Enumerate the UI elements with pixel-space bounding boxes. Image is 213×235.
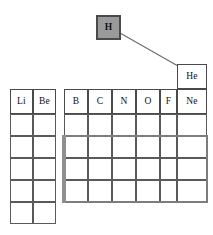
grid-cell[interactable]: [33, 158, 56, 180]
grid-cell[interactable]: [177, 114, 207, 136]
element-cell-oxygen[interactable]: O: [136, 89, 160, 114]
grid-cell[interactable]: [10, 180, 33, 202]
element-cell-lithium[interactable]: Li: [10, 89, 33, 114]
grid-cell[interactable]: [33, 136, 56, 158]
element-symbol-carbon: C: [97, 97, 104, 107]
grid-cell[interactable]: [64, 136, 88, 158]
grid-cell[interactable]: [33, 202, 56, 224]
grid-cell[interactable]: [136, 180, 160, 202]
grid-cell[interactable]: [112, 180, 136, 202]
element-cell-hydrogen[interactable]: H: [96, 15, 121, 40]
periodic-table-diagram: H He Li Be B C N O F Ne: [0, 0, 213, 235]
grid-cell[interactable]: [33, 114, 56, 136]
grid-cell[interactable]: [177, 136, 207, 158]
element-symbol-lithium: Li: [17, 97, 26, 107]
element-cell-boron[interactable]: B: [64, 89, 88, 114]
block-divider-bar: [62, 135, 66, 203]
grid-cell[interactable]: [160, 158, 177, 180]
element-cell-beryllium[interactable]: Be: [33, 89, 56, 114]
element-symbol-boron: B: [73, 97, 80, 107]
grid-cell[interactable]: [136, 114, 160, 136]
grid-cell[interactable]: [136, 158, 160, 180]
grid-cell[interactable]: [10, 114, 33, 136]
grid-cell[interactable]: [88, 114, 112, 136]
grid-cell[interactable]: [64, 180, 88, 202]
grid-cell[interactable]: [33, 180, 56, 202]
element-symbol-oxygen: O: [144, 97, 151, 107]
grid-cell[interactable]: [160, 136, 177, 158]
element-symbol-hydrogen: H: [105, 23, 113, 33]
grid-cell[interactable]: [88, 180, 112, 202]
grid-cell[interactable]: [64, 158, 88, 180]
grid-cell[interactable]: [10, 158, 33, 180]
grid-cell[interactable]: [136, 136, 160, 158]
grid-cell[interactable]: [112, 136, 136, 158]
grid-cell[interactable]: [177, 180, 207, 202]
grid-cell[interactable]: [10, 202, 33, 224]
element-cell-neon[interactable]: Ne: [177, 89, 207, 114]
element-cell-carbon[interactable]: C: [88, 89, 112, 114]
grid-cell[interactable]: [160, 114, 177, 136]
element-symbol-nitrogen: N: [120, 97, 127, 107]
grid-cell[interactable]: [112, 158, 136, 180]
grid-cell[interactable]: [112, 114, 136, 136]
grid-cell[interactable]: [10, 136, 33, 158]
element-symbol-fluorine: F: [166, 97, 171, 107]
connector-stroke: [120, 33, 178, 66]
grid-cell[interactable]: [88, 158, 112, 180]
element-cell-nitrogen[interactable]: N: [112, 89, 136, 114]
element-symbol-helium: He: [186, 72, 197, 82]
grid-cell[interactable]: [177, 158, 207, 180]
grid-cell[interactable]: [64, 114, 88, 136]
grid-cell[interactable]: [160, 180, 177, 202]
element-symbol-beryllium: Be: [39, 97, 50, 107]
element-cell-helium[interactable]: He: [177, 64, 207, 89]
element-cell-fluorine[interactable]: F: [160, 89, 177, 114]
grid-cell[interactable]: [88, 136, 112, 158]
element-symbol-neon: Ne: [186, 97, 197, 107]
